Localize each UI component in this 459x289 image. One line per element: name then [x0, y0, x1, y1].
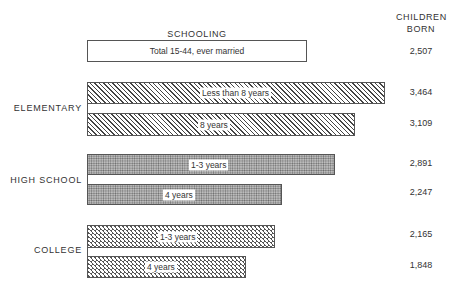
bar-high-school-1-3-years: 1-3 years — [87, 154, 335, 175]
children-born-header-line1: CHILDREN — [396, 12, 446, 22]
bar-label-high-school-1-3-years: 1-3 years — [189, 159, 228, 170]
value-high-school-4-years: 2,247 — [401, 187, 441, 197]
children-born-header-line2: BORN — [396, 24, 446, 34]
bar-label-elementary-less-than-8: Less than 8 years — [200, 88, 271, 99]
bar-label-total: Total 15-44, ever married — [148, 46, 247, 57]
value-college-4-years: 1,848 — [401, 260, 441, 270]
bar-label-college-4-years: 4 years — [145, 262, 177, 273]
group-label-college: COLLEGE — [0, 245, 82, 255]
value-college-1-3-years: 2,165 — [401, 229, 441, 239]
value-high-school-1-3-years: 2,891 — [401, 158, 441, 168]
bar-label-high-school-4-years: 4 years — [163, 189, 195, 200]
schooling-header: SCHOOLING — [137, 29, 257, 39]
bar-label-elementary-8-years: 8 years — [198, 119, 230, 130]
value-total: 2,507 — [401, 46, 441, 56]
bar-college-1-3-years: 1-3 years — [87, 225, 275, 248]
group-label-high-school: HIGH SCHOOL — [0, 175, 82, 185]
bar-total: Total 15-44, ever married — [87, 40, 307, 62]
bar-college-4-years: 4 years — [87, 256, 246, 278]
value-elementary-8-years: 3,109 — [401, 118, 441, 128]
group-label-elementary: ELEMENTARY — [0, 103, 82, 113]
bar-elementary-less-than-8: Less than 8 years — [87, 82, 385, 104]
bar-high-school-4-years: 4 years — [87, 184, 282, 205]
value-elementary-less-than-8: 3,464 — [401, 87, 441, 97]
bar-label-college-1-3-years: 1-3 years — [158, 231, 197, 242]
bar-elementary-8-years: 8 years — [87, 113, 355, 136]
